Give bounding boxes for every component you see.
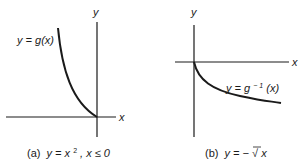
panel-a-x-label: x xyxy=(118,111,125,123)
panel-b-caption-radical: √ xyxy=(252,147,259,159)
panel-b-caption-prefix: (b) xyxy=(205,147,218,159)
panel-b-caption-arg: x xyxy=(260,147,267,159)
panel-a-caption-prefix: (a) xyxy=(27,147,40,159)
panel-b-curve-label-rest: (x) xyxy=(266,82,279,94)
panel-a-curve-label: y = g(x) xyxy=(16,34,54,46)
panel-b-curve-label: y = g − 1 (x) xyxy=(225,78,279,94)
panel-b: x y y = g − 1 (x) (b) y = − √ x xyxy=(175,6,298,159)
panel-b-x-label: x xyxy=(291,56,298,68)
panel-a-caption: (a) y = x 2 , x ≤ 0 xyxy=(27,143,111,159)
panel-a-curve-g xyxy=(58,28,97,117)
panel-b-curve-label-exp: − 1 xyxy=(253,82,263,89)
panel-a-caption-rest: , x ≤ 0 xyxy=(80,147,111,159)
panel-a-caption-exp: 2 xyxy=(73,147,77,154)
panel-a-caption-lhs: y = x xyxy=(46,147,71,159)
panel-b-caption-lhs: y = − xyxy=(224,147,253,159)
function-inverse-diagram: x y y = g(x) (a) y = x 2 , x ≤ 0 x y y =… xyxy=(0,0,302,167)
panel-b-caption: (b) y = − √ x xyxy=(205,147,267,159)
panel-b-curve-label-lhs: y = g xyxy=(225,82,251,94)
panel-a-y-label: y xyxy=(92,6,100,18)
panel-b-y-label: y xyxy=(190,6,198,18)
panel-a: x y y = g(x) (a) y = x 2 , x ≤ 0 xyxy=(6,6,125,159)
